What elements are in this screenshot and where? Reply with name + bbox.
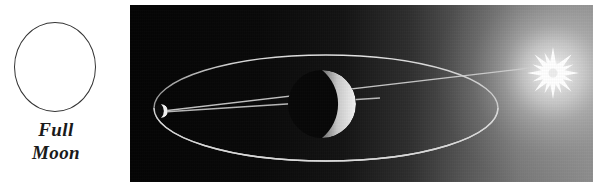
orbit-diagram-panel — [130, 5, 593, 182]
phase-caption: Full Moon — [0, 118, 112, 164]
sun-icon — [523, 43, 583, 103]
full-moon-disc-icon — [14, 22, 96, 112]
figure-root: Full Moon — [0, 0, 600, 191]
orbit-diagram-svg — [130, 5, 593, 182]
phase-caption-line-1: Full — [0, 118, 112, 141]
phase-key-panel: Full Moon — [0, 0, 128, 191]
phase-caption-line-2: Moon — [0, 141, 112, 164]
